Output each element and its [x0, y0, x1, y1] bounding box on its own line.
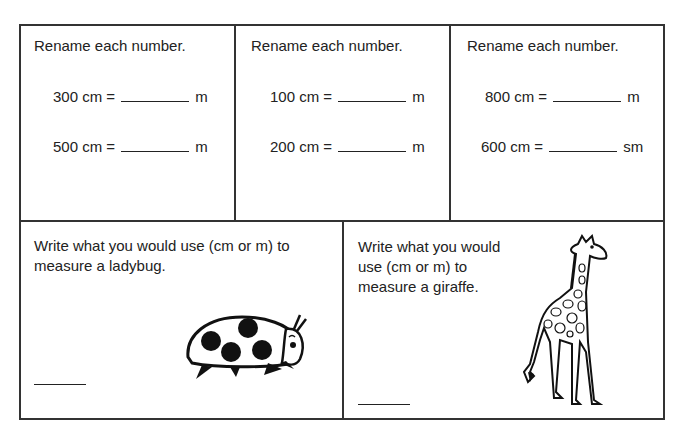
problem-500cm: 500 cm =m — [53, 137, 208, 155]
divider-bottom — [342, 220, 344, 420]
problem-unit: sm — [623, 138, 643, 155]
problem-left: 600 cm = — [481, 138, 543, 155]
answer-blank[interactable] — [338, 87, 406, 102]
problem-unit: m — [412, 138, 425, 155]
problem-100cm: 100 cm =m — [270, 87, 425, 105]
ladybug-question-line2: measure a ladybug. — [34, 255, 166, 276]
ladybug-icon — [182, 305, 312, 385]
instruction-cell-1: Rename each number. — [34, 35, 186, 56]
giraffe-question-line3: measure a giraffe. — [358, 276, 479, 297]
answer-blank[interactable] — [121, 137, 189, 152]
problem-left: 800 cm = — [485, 88, 547, 105]
problem-left: 500 cm = — [53, 138, 115, 155]
problem-left: 200 cm = — [270, 138, 332, 155]
instruction-cell-2: Rename each number. — [251, 35, 403, 56]
answer-blank[interactable] — [338, 137, 406, 152]
problem-800cm: 800 cm =m — [485, 87, 640, 105]
ladybug-question-line1: Write what you would use (cm or m) to — [34, 235, 290, 256]
problem-unit: m — [627, 88, 640, 105]
ladybug-answer-blank[interactable] — [34, 384, 86, 385]
giraffe-icon — [520, 232, 620, 412]
giraffe-question-line2: use (cm or m) to — [358, 256, 467, 277]
problem-unit: m — [195, 88, 208, 105]
problem-300cm: 300 cm =m — [53, 87, 208, 105]
giraffe-answer-blank[interactable] — [358, 404, 410, 405]
divider-top-1 — [234, 24, 236, 222]
giraffe-question-line1: Write what you would — [358, 236, 500, 257]
divider-top-2 — [449, 24, 451, 222]
problem-200cm: 200 cm =m — [270, 137, 425, 155]
problem-left: 300 cm = — [53, 88, 115, 105]
instruction-cell-3: Rename each number. — [467, 35, 619, 56]
answer-blank[interactable] — [549, 137, 617, 152]
problem-left: 100 cm = — [270, 88, 332, 105]
problem-600cm: 600 cm =sm — [481, 137, 643, 155]
problem-unit: m — [412, 88, 425, 105]
answer-blank[interactable] — [553, 87, 621, 102]
answer-blank[interactable] — [121, 87, 189, 102]
problem-unit: m — [195, 138, 208, 155]
